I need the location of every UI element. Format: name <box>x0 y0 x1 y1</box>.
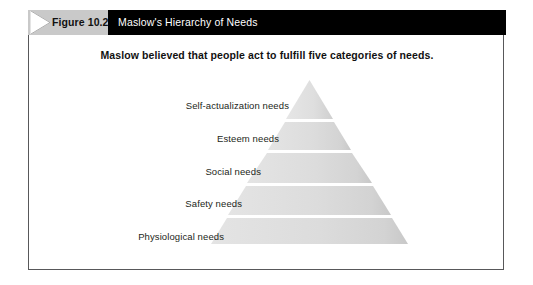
figure-number-tab: Figure 10.2 <box>28 10 108 35</box>
figure-number-label: Figure 10.2 <box>52 10 109 35</box>
tier-label-safety: Safety needs <box>59 198 242 209</box>
tier-label-self-actualization: Self-actualization needs <box>89 100 289 111</box>
tier-label-physiological: Physiological needs <box>39 231 224 242</box>
pyramid-diagram: Self-actualization needs Esteem needs So… <box>29 35 505 270</box>
figure-header-bar: Figure 10.2 Maslow's Hierarchy of Needs <box>28 10 506 35</box>
figure-container: Figure 10.2 Maslow's Hierarchy of Needs … <box>0 0 533 285</box>
tier-label-social: Social needs <box>69 166 261 177</box>
chevron-right-icon <box>30 10 52 35</box>
pyramid-tier-labels: Self-actualization needs Esteem needs So… <box>29 35 505 270</box>
tier-label-esteem: Esteem needs <box>89 133 279 144</box>
figure-body-panel: Maslow believed that people act to fulfi… <box>28 35 504 270</box>
figure-title: Maslow's Hierarchy of Needs <box>118 10 258 35</box>
